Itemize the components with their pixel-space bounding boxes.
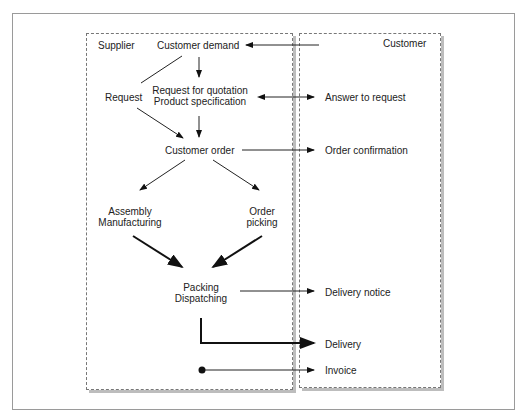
customer-order-node: Customer order [165,145,234,156]
invoice-item: Invoice [325,365,357,376]
assembly-line2: Manufacturing [94,217,166,228]
order-picking-node: Order picking [242,206,282,228]
picking-line1: Order [242,206,282,217]
order-confirmation-item: Order confirmation [325,145,408,156]
packing-node: Packing Dispatching [168,282,234,304]
delivery-notice-item: Delivery notice [325,287,391,298]
rfq-line2: Product specification [147,96,253,107]
packing-line2: Dispatching [168,293,234,304]
rfq-line1: Request for quotation [147,85,253,96]
assembly-node: Assembly Manufacturing [94,206,166,228]
picking-line2: picking [242,217,282,228]
delivery-item: Delivery [325,339,361,350]
customer-demand-node: Customer demand [157,40,239,51]
customer-lane-label: Customer [383,38,426,49]
request-node: Request [105,92,142,103]
rfq-node: Request for quotation Product specificat… [147,85,253,107]
supplier-lane-label: Supplier [98,40,135,51]
assembly-line1: Assembly [94,206,166,217]
packing-line1: Packing [168,282,234,293]
answer-to-request-item: Answer to request [325,92,406,103]
